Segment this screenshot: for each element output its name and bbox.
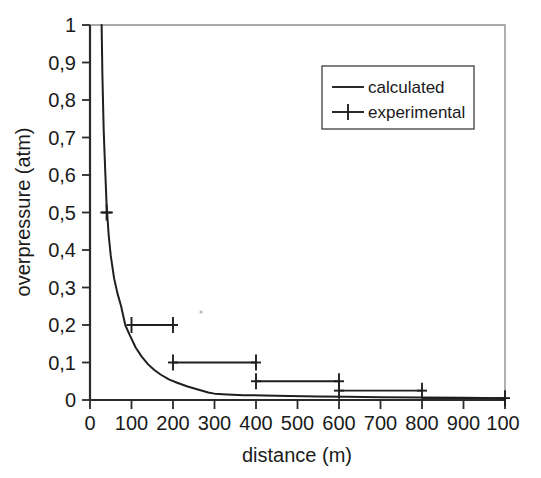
y-tick-label-0: 0 bbox=[65, 389, 76, 411]
experimental-plus-marker bbox=[417, 383, 427, 399]
experimental-plus-marker bbox=[102, 205, 112, 221]
x-tick-label-5: 500 bbox=[281, 412, 314, 434]
x-tick-label-8: 800 bbox=[405, 412, 438, 434]
y-axis-ticks bbox=[82, 25, 90, 400]
y-tick-label-4: 0,4 bbox=[48, 239, 76, 261]
experimental-plus-marker bbox=[251, 373, 261, 389]
x-tick-label-7: 700 bbox=[364, 412, 397, 434]
y-tick-label-8: 0,8 bbox=[48, 89, 76, 111]
experimental-plus-marker bbox=[251, 355, 261, 371]
y-axis-title: overpressure (atm) bbox=[12, 128, 34, 297]
y-tick-label-1: 0,1 bbox=[48, 352, 76, 374]
x-tick-label-9: 900 bbox=[447, 412, 480, 434]
x-axis: 0 100 200 300 400 500 600 700 800 900 10… bbox=[84, 400, 519, 466]
y-tick-label-3: 0,3 bbox=[48, 277, 76, 299]
legend-label-experimental: experimental bbox=[368, 103, 465, 122]
experimental-plus-marker bbox=[168, 355, 178, 371]
chart-figure: 0 0,1 0,2 0,3 0,4 0,5 0,6 0,7 0,8 0,9 1 … bbox=[0, 0, 541, 478]
y-tick-label-5: 0,5 bbox=[48, 202, 76, 224]
scan-speck bbox=[199, 310, 202, 313]
experimental-plus-marker bbox=[168, 317, 178, 333]
x-axis-tick-labels: 0 100 200 300 400 500 600 700 800 900 10… bbox=[84, 412, 519, 434]
chart-legend: calculated experimental bbox=[322, 66, 474, 129]
legend-label-calculated: calculated bbox=[368, 78, 445, 97]
x-tick-label-3: 300 bbox=[198, 412, 231, 434]
overpressure-distance-chart: 0 0,1 0,2 0,3 0,4 0,5 0,6 0,7 0,8 0,9 1 … bbox=[0, 0, 541, 478]
y-axis-tick-labels: 0 0,1 0,2 0,3 0,4 0,5 0,6 0,7 0,8 0,9 1 bbox=[48, 14, 76, 411]
y-tick-label-2: 0,2 bbox=[48, 314, 76, 336]
y-tick-label-7: 0,7 bbox=[48, 127, 76, 149]
x-tick-label-1: 100 bbox=[115, 412, 148, 434]
x-axis-title: distance (m) bbox=[242, 444, 352, 466]
x-tick-label-4: 400 bbox=[239, 412, 272, 434]
x-axis-ticks bbox=[90, 400, 505, 409]
y-tick-label-9: 0,9 bbox=[48, 52, 76, 74]
experimental-plus-marker bbox=[500, 390, 510, 406]
x-tick-label-6: 600 bbox=[322, 412, 355, 434]
y-axis: 0 0,1 0,2 0,3 0,4 0,5 0,6 0,7 0,8 0,9 1 … bbox=[12, 14, 90, 411]
y-tick-label-6: 0,6 bbox=[48, 164, 76, 186]
x-tick-label-2: 200 bbox=[156, 412, 189, 434]
x-tick-label-10: 100 bbox=[486, 412, 519, 434]
y-tick-label-10: 1 bbox=[65, 14, 76, 36]
x-tick-label-0: 0 bbox=[84, 412, 95, 434]
